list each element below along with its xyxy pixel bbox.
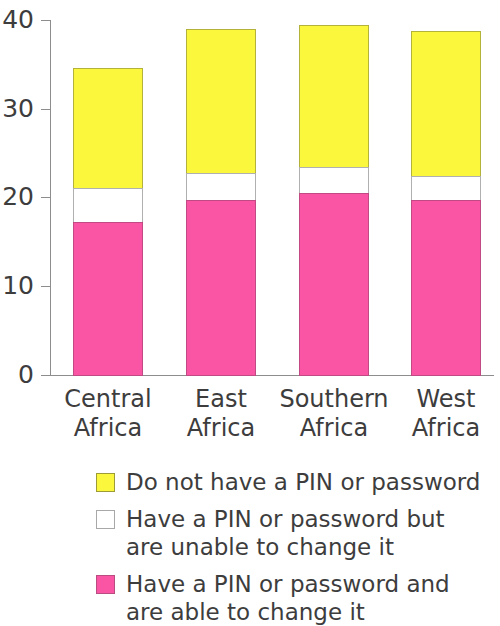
legend-item-unable-to-change[interactable]: Have a PIN or password but are unable to… bbox=[96, 505, 500, 561]
bar-segment-able-change-central-africa[interactable] bbox=[73, 222, 143, 376]
bar-segment-no-pin-southern-africa[interactable] bbox=[299, 25, 369, 168]
bar-segment-able-change-west-africa[interactable] bbox=[411, 200, 481, 376]
bar-west-africa[interactable] bbox=[411, 31, 481, 376]
plot-area: 40 30 20 10 0 bbox=[0, 0, 500, 380]
y-axis-line bbox=[50, 20, 51, 376]
y-tick-mark-0 bbox=[41, 375, 50, 376]
legend-label-able-to-change: Have a PIN or password and are able to c… bbox=[126, 570, 450, 626]
bar-segment-able-change-southern-africa[interactable] bbox=[299, 193, 369, 376]
x-axis-label-central-africa: Central Africa bbox=[53, 385, 163, 443]
bar-segment-no-pin-central-africa[interactable] bbox=[73, 68, 143, 189]
x-axis-label-southern-africa: Southern Africa bbox=[272, 385, 396, 443]
white-swatch-icon bbox=[96, 510, 115, 529]
bar-segment-unable-change-east-africa[interactable] bbox=[186, 173, 256, 201]
bar-segment-unable-change-southern-africa[interactable] bbox=[299, 167, 369, 194]
bar-segment-unable-change-west-africa[interactable] bbox=[411, 176, 481, 201]
bar-southern-africa[interactable] bbox=[299, 25, 369, 376]
legend: Do not have a PIN or password Have a PIN… bbox=[96, 468, 500, 626]
bar-central-africa[interactable] bbox=[73, 68, 143, 376]
bar-segment-able-change-east-africa[interactable] bbox=[186, 200, 256, 376]
bar-segment-no-pin-east-africa[interactable] bbox=[186, 29, 256, 174]
y-tick-label-10: 10 bbox=[2, 273, 34, 298]
legend-label-unable-to-change: Have a PIN or password but are unable to… bbox=[126, 505, 445, 561]
y-tick-label-30: 30 bbox=[2, 96, 34, 121]
legend-item-able-to-change[interactable]: Have a PIN or password and are able to c… bbox=[96, 570, 500, 626]
y-tick-label-0: 0 bbox=[18, 362, 34, 387]
legend-label-no-pin: Do not have a PIN or password bbox=[126, 468, 480, 496]
x-axis-label-east-africa: East Africa bbox=[166, 385, 276, 443]
y-tick-mark-40 bbox=[41, 20, 50, 21]
bar-segment-unable-change-central-africa[interactable] bbox=[73, 188, 143, 223]
bar-segment-no-pin-west-africa[interactable] bbox=[411, 31, 481, 177]
y-tick-mark-10 bbox=[41, 286, 50, 287]
x-axis-label-west-africa: West Africa bbox=[391, 385, 500, 443]
legend-item-no-pin[interactable]: Do not have a PIN or password bbox=[96, 468, 500, 496]
y-tick-mark-30 bbox=[41, 109, 50, 110]
bar-east-africa[interactable] bbox=[186, 29, 256, 376]
y-tick-mark-20 bbox=[41, 197, 50, 198]
y-tick-label-20: 20 bbox=[2, 184, 34, 209]
yellow-swatch-icon bbox=[96, 473, 115, 492]
stacked-bar-chart: 40 30 20 10 0 bbox=[0, 0, 500, 626]
pink-swatch-icon bbox=[96, 575, 115, 594]
y-tick-label-40: 40 bbox=[2, 7, 34, 32]
